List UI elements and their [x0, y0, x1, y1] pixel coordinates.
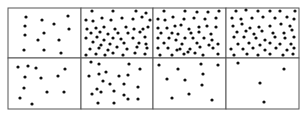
dot: [186, 50, 189, 53]
dot: [136, 97, 139, 100]
dot: [131, 17, 134, 20]
dot: [108, 82, 111, 85]
dot: [23, 24, 26, 27]
dot: [22, 86, 25, 89]
dot: [178, 47, 181, 50]
dot: [252, 32, 255, 35]
dot: [34, 66, 37, 69]
panel-2: [81, 8, 153, 58]
dot: [292, 17, 295, 20]
dot: [133, 51, 136, 54]
dot: [187, 92, 190, 95]
dot: [111, 9, 114, 12]
dot: [117, 74, 120, 77]
dot: [268, 9, 271, 12]
dot: [256, 53, 259, 56]
dot: [97, 72, 100, 75]
dot: [144, 11, 147, 14]
dot: [210, 98, 213, 101]
dot: [42, 48, 45, 51]
dot: [254, 36, 257, 39]
dot: [236, 42, 239, 45]
dot: [97, 62, 100, 65]
dot: [157, 63, 160, 66]
dot: [207, 43, 210, 46]
dot: [244, 8, 247, 11]
dot: [88, 47, 91, 50]
dot: [197, 30, 200, 33]
dot: [170, 31, 173, 34]
dot: [165, 26, 168, 29]
dot: [283, 36, 286, 39]
dot: [116, 31, 119, 34]
dot: [57, 38, 60, 41]
dot: [256, 9, 259, 12]
dot: [162, 9, 165, 12]
dot: [97, 46, 100, 49]
dot: [165, 77, 168, 80]
dot: [158, 53, 161, 56]
dot: [156, 26, 159, 29]
dot: [101, 79, 104, 82]
dot: [257, 25, 260, 28]
dot: [170, 53, 173, 56]
dot: [95, 35, 98, 38]
dot: [262, 100, 265, 103]
dot: [274, 46, 277, 49]
dot: [202, 36, 205, 39]
dot: [59, 51, 62, 54]
dot: [171, 15, 174, 18]
dot: [108, 42, 111, 45]
dot: [89, 31, 92, 34]
dot: [90, 92, 93, 95]
dot: [99, 90, 102, 93]
dot: [99, 43, 102, 46]
dot: [251, 46, 254, 49]
dot: [268, 52, 271, 55]
dot: [197, 25, 200, 28]
dot: [91, 40, 94, 43]
dot: [126, 31, 129, 34]
dot: [67, 27, 70, 30]
dot: [180, 42, 183, 45]
dot: [143, 35, 146, 38]
dot: [94, 52, 97, 55]
dot: [22, 48, 25, 51]
dot: [214, 25, 217, 28]
dot: [263, 38, 266, 41]
dot: [106, 32, 109, 35]
dot: [23, 75, 26, 78]
dot: [62, 90, 65, 93]
dot: [217, 9, 220, 12]
panel-border: [81, 58, 153, 109]
dot: [115, 45, 118, 48]
dot: [124, 25, 127, 28]
dot: [282, 67, 285, 70]
dot: [84, 36, 87, 39]
dot: [279, 22, 282, 25]
dot: [23, 33, 26, 36]
dot: [156, 17, 159, 20]
dot: [42, 31, 45, 34]
dot: [140, 15, 143, 18]
dot: [192, 16, 195, 19]
dot: [127, 62, 130, 65]
dot: [132, 27, 135, 30]
dot: [167, 36, 170, 39]
dot: [163, 18, 166, 21]
dot: [141, 27, 144, 30]
dot: [261, 15, 264, 18]
dot: [145, 46, 148, 49]
dot: [18, 96, 21, 99]
dot: [174, 38, 177, 41]
dot: [66, 14, 69, 17]
dot: [260, 29, 263, 32]
dot: [137, 41, 140, 44]
dot: [229, 47, 232, 50]
dot: [199, 62, 202, 65]
dot: [183, 36, 186, 39]
dot: [182, 52, 185, 55]
dot: [290, 28, 293, 31]
dot: [87, 74, 90, 77]
dot: [206, 10, 209, 13]
